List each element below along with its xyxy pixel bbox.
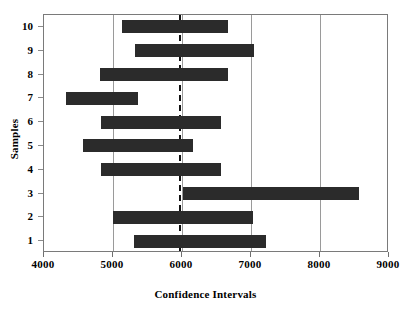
y-tick-6 xyxy=(38,121,43,122)
y-tick-2 xyxy=(38,216,43,217)
y-axis-title: Samples xyxy=(8,99,20,179)
x-tick-6000 xyxy=(181,252,182,257)
x-tick-7000 xyxy=(250,252,251,257)
ci-bar-sample-9 xyxy=(135,44,254,57)
y-tick-3 xyxy=(38,193,43,194)
y-tick-label-1: 1 xyxy=(0,234,33,246)
y-tick-label-8: 8 xyxy=(0,68,33,80)
ci-bar-sample-4 xyxy=(101,163,221,176)
ci-bar-sample-6 xyxy=(101,116,221,129)
plot-area xyxy=(43,14,388,252)
y-tick-label-10: 10 xyxy=(0,20,33,32)
x-tick-5000 xyxy=(112,252,113,257)
x-tick-4000 xyxy=(43,252,44,257)
x-tick-9000 xyxy=(388,252,389,257)
y-tick-9 xyxy=(38,50,43,51)
ci-bar-sample-10 xyxy=(122,20,228,33)
x-tick-label-6000: 6000 xyxy=(170,258,193,270)
y-tick-label-2: 2 xyxy=(0,210,33,222)
y-tick-7 xyxy=(38,97,43,98)
x-axis-title: Confidence Intervals xyxy=(0,288,411,300)
ci-bar-sample-2 xyxy=(113,211,253,224)
y-tick-1 xyxy=(38,240,43,241)
ci-bar-sample-7 xyxy=(66,92,138,105)
y-tick-label-3: 3 xyxy=(0,187,33,199)
y-tick-5 xyxy=(38,145,43,146)
x-tick-label-8000: 8000 xyxy=(308,258,331,270)
y-tick-4 xyxy=(38,169,43,170)
x-tick-8000 xyxy=(319,252,320,257)
y-tick-10 xyxy=(38,26,43,27)
y-tick-label-9: 9 xyxy=(0,44,33,56)
ci-bar-sample-5 xyxy=(83,139,193,152)
ci-bar-sample-3 xyxy=(183,187,359,200)
x-tick-label-5000: 5000 xyxy=(101,258,124,270)
x-tick-label-7000: 7000 xyxy=(239,258,262,270)
bars-group xyxy=(44,15,387,251)
ci-bar-sample-8 xyxy=(100,68,228,81)
y-tick-8 xyxy=(38,74,43,75)
x-tick-label-9000: 9000 xyxy=(377,258,400,270)
ci-bar-sample-1 xyxy=(134,235,266,248)
x-tick-label-4000: 4000 xyxy=(32,258,55,270)
confidence-interval-chart: 400050006000700080009000 12345678910 Con… xyxy=(0,0,411,316)
